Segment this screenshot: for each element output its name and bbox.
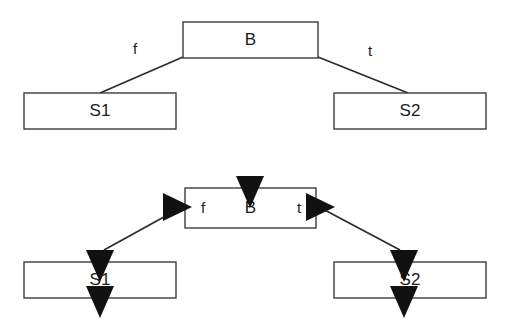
upper-edge-b-to-s1 — [100, 57, 183, 93]
lower-panel: B f t S1 S2 — [24, 176, 486, 318]
upper-edge-b-to-s2 — [318, 57, 408, 93]
upper-node-b-label: B — [245, 30, 256, 49]
arrowhead-s2-exit-down-icon — [390, 286, 418, 318]
upper-node-s1-label: S1 — [90, 101, 111, 120]
upper-panel: B S1 S2 f t — [24, 22, 486, 129]
diagram-canvas: B S1 S2 f t B f t S1 S2 — [0, 0, 510, 330]
arrowhead-b-right-right-icon — [306, 193, 335, 221]
upper-edge-label-f: f — [133, 40, 138, 57]
diagram-svg: B S1 S2 f t B f t S1 S2 — [0, 0, 510, 330]
upper-edge-label-t: t — [368, 42, 373, 59]
lower-edge-b-to-s2 — [319, 207, 400, 250]
arrowhead-s1-exit-down-icon — [86, 286, 114, 318]
upper-node-s2-label: S2 — [400, 101, 421, 120]
